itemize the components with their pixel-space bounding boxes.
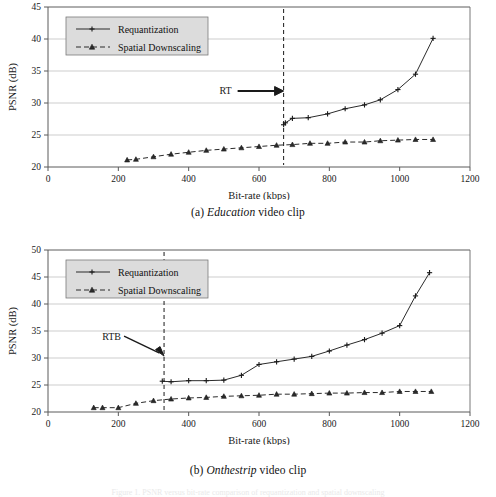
annotation-arrow-line: [124, 336, 160, 353]
y-tick-label: 30: [32, 353, 42, 363]
x-tick-label: 800: [322, 419, 337, 429]
data-point: [169, 152, 174, 157]
figure-container: 202530354045020040060080010001200Bit-rat…: [0, 0, 496, 497]
x-tick-label: 1200: [461, 419, 480, 429]
data-point: [325, 111, 330, 116]
data-point: [427, 270, 432, 275]
data-point: [239, 373, 244, 378]
x-tick-label: 600: [252, 419, 267, 429]
y-tick-label: 40: [32, 299, 42, 309]
y-tick-label: 25: [32, 380, 42, 390]
data-point: [343, 106, 348, 111]
caption-emphasis: Education: [207, 206, 255, 218]
chart-legend: RequantizationSpatial Downscaling: [66, 17, 208, 55]
data-point: [274, 359, 279, 364]
caption-suffix: video clip: [258, 206, 305, 218]
data-point: [290, 116, 295, 121]
y-tick-label: 35: [32, 66, 42, 76]
x-tick-label: 0: [46, 419, 51, 429]
chart-legend: RequantizationSpatial Downscaling: [66, 260, 208, 298]
data-point: [292, 356, 297, 361]
y-tick-label: 20: [32, 407, 42, 417]
data-point: [306, 115, 311, 120]
legend-label: Spatial Downscaling: [118, 42, 201, 53]
footer-partial-text: Figure 1. PSNR versus bit-rate compariso…: [0, 488, 496, 497]
y-tick-label: 45: [32, 2, 42, 12]
data-point: [256, 362, 261, 367]
caption-suffix: video clip: [260, 464, 307, 476]
x-tick-label: 1000: [390, 419, 409, 429]
chart-onthestrip-svg: 20253035404550020040060080010001200Bit-r…: [0, 240, 496, 445]
x-tick-label: 400: [182, 174, 197, 184]
series-line-requantization: [284, 38, 433, 124]
x-axis-title: Bit-rate (kbps): [228, 190, 290, 200]
data-point: [204, 378, 209, 383]
plot-group: 202530354045020040060080010001200Bit-rat…: [7, 2, 480, 200]
chart-panel-education: 202530354045020040060080010001200Bit-rat…: [0, 0, 496, 232]
x-axis-title: Bit-rate (kbps): [228, 435, 290, 445]
x-tick-label: 200: [111, 419, 126, 429]
data-point: [221, 378, 226, 383]
y-axis-title: PSNR (dB): [7, 306, 19, 355]
y-tick-label: 20: [32, 162, 42, 172]
data-point: [430, 36, 435, 41]
series-line-spatial-downscaling: [127, 139, 433, 159]
annotation-label: RT: [219, 85, 231, 96]
caption-emphasis: Onthestrip: [206, 464, 256, 476]
annotation-label: RTB: [102, 331, 121, 342]
data-point: [362, 337, 367, 342]
chart-education: 202530354045020040060080010001200Bit-rat…: [0, 0, 496, 198]
legend-label: Spatial Downscaling: [118, 285, 201, 296]
caption-onthestrip: (b) Onthestrip video clip: [0, 464, 496, 476]
x-tick-label: 200: [111, 174, 126, 184]
x-tick-label: 1000: [390, 174, 409, 184]
y-tick-label: 45: [32, 272, 42, 282]
legend-label: Requantization: [118, 267, 179, 278]
data-point: [397, 323, 402, 328]
data-point: [186, 378, 191, 383]
x-tick-label: 0: [46, 174, 51, 184]
chart-panel-onthestrip: 20253035404550020040060080010001200Bit-r…: [0, 240, 496, 497]
y-axis-title: PSNR (dB): [7, 62, 19, 111]
caption-education: (a) Education video clip: [0, 206, 496, 218]
caption-prefix: (a): [191, 206, 204, 218]
data-point: [413, 293, 418, 298]
data-point: [151, 398, 156, 403]
data-point: [327, 348, 332, 353]
x-tick-label: 800: [322, 174, 337, 184]
x-tick-label: 600: [252, 174, 267, 184]
y-tick-label: 25: [32, 130, 42, 140]
y-tick-label: 40: [32, 34, 42, 44]
y-tick-label: 30: [32, 98, 42, 108]
chart-onthestrip: 20253035404550020040060080010001200Bit-r…: [0, 240, 496, 440]
legend-label: Requantization: [118, 24, 179, 35]
data-point: [378, 97, 383, 102]
annotation-arrow-head: [275, 87, 284, 96]
marker-triangle-icon: [151, 398, 156, 403]
y-tick-label: 35: [32, 326, 42, 336]
chart-education-svg: 202530354045020040060080010001200Bit-rat…: [0, 0, 496, 200]
marker-triangle-icon: [169, 152, 174, 157]
data-point: [168, 379, 173, 384]
data-point: [344, 342, 349, 347]
plot-group: 20253035404550020040060080010001200Bit-r…: [7, 245, 480, 445]
x-tick-label: 400: [182, 419, 197, 429]
y-tick-label: 50: [32, 245, 42, 255]
caption-prefix: (b): [190, 464, 204, 476]
x-tick-label: 1200: [461, 174, 480, 184]
